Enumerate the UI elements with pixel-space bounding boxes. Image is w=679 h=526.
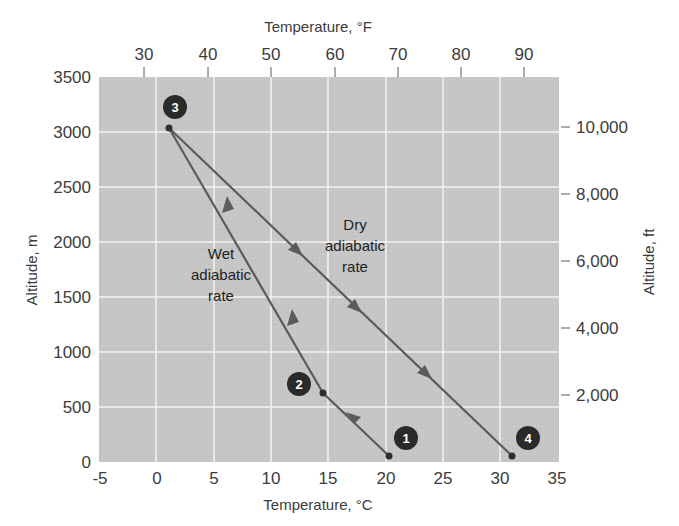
y2-tick: 2,000 [576,386,619,405]
x2-tick: 60 [326,45,345,64]
marker-label: 3 [171,100,178,115]
y-tick: 3000 [53,123,91,142]
x2-tick: 70 [389,45,408,64]
y-tick: 2500 [53,178,91,197]
annotation-line: adiabatic [191,266,252,283]
x-tick: 0 [152,469,161,488]
x-tick: 10 [262,469,281,488]
y2-axis-title: Altitude, ft [640,228,657,296]
x-tick: 30 [491,469,510,488]
marker-2: 2 [287,372,311,396]
x2-tick-labels: 30 40 50 60 70 80 90 [135,45,534,64]
x-axis-bottom: -5 0 5 10 15 20 25 30 35 [92,469,566,488]
marker-label: 2 [295,377,302,392]
x2-axis-title: Temperature, °F [264,18,372,35]
marker-4: 4 [516,426,540,450]
x-tick: 5 [209,469,218,488]
x2-tick: 40 [199,45,218,64]
y-tick: 1500 [53,288,91,307]
x2-tick: 50 [262,45,281,64]
marker-label: 1 [402,431,409,446]
adiabatic-rate-chart: 0 500 1000 1500 2000 2500 3000 3500 Alti… [0,0,679,526]
y-tick: 500 [63,398,91,417]
x-tick: -5 [92,469,107,488]
y-tick: 1000 [53,343,91,362]
annotation-line: rate [208,287,234,304]
x-tick: 25 [434,469,453,488]
y-tick: 3500 [53,68,91,87]
plot-area [99,77,559,462]
marker-1: 1 [394,426,418,450]
annotation-line: Dry [343,216,367,233]
y2-tick: 10,000 [576,118,628,137]
x-tick: 20 [377,469,396,488]
annotation-line: rate [342,258,368,275]
x-axis-title: Temperature, °C [263,496,373,513]
y-tick: 2000 [53,233,91,252]
x-tick: 35 [548,469,567,488]
y-axis-left: 0 500 1000 1500 2000 2500 3000 3500 [53,68,91,472]
x2-tick: 90 [515,45,534,64]
y2-tick-labels: 2,000 4,000 6,000 8,000 10,000 [576,118,628,405]
annotation-line: Wet [208,245,235,262]
y2-tick: 6,000 [576,252,619,271]
x2-tick: 80 [452,45,471,64]
x-tick: 15 [319,469,338,488]
marker-3: 3 [163,95,187,119]
y-axis-right [561,127,570,395]
marker-label: 4 [524,431,532,446]
x-axis-top [144,67,524,77]
x2-tick: 30 [135,45,154,64]
y2-tick: 8,000 [576,185,619,204]
y-axis-title: Altitude, m [23,235,40,306]
y2-tick: 4,000 [576,319,619,338]
y-tick: 0 [82,453,91,472]
annotation-line: adiabatic [325,237,386,254]
